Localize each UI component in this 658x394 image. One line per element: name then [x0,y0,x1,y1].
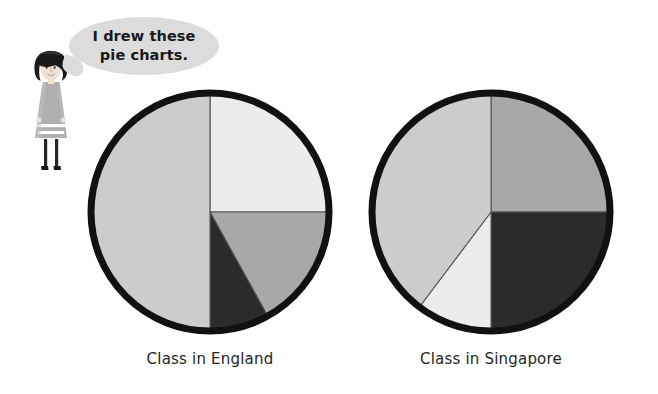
caption-singapore: Class in Singapore [368,350,614,368]
pie-chart-england-svg [87,88,333,336]
speech-line-1: I drew these [92,27,195,46]
pie-chart-england [87,88,333,336]
legs-group [41,139,61,170]
illustration-canvas: I drew these pie charts. Class in Englan… [0,0,658,394]
pie-chart-singapore [368,88,614,336]
caption-england: Class in England [87,350,333,368]
pie-slice [91,93,210,331]
speech-line-2: pie charts. [100,46,188,65]
pie-chart-singapore-svg [368,88,614,336]
speech-bubble: I drew these pie charts. [69,17,219,75]
